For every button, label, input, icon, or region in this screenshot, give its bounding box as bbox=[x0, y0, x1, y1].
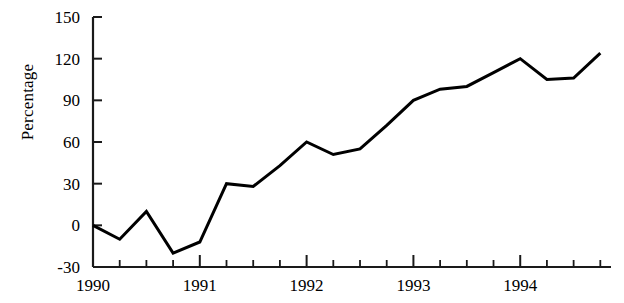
y-axis-tick-label: 90 bbox=[63, 91, 80, 110]
x-axis-tick-label: 1992 bbox=[290, 276, 324, 295]
x-axis-tick-label: 1990 bbox=[76, 276, 110, 295]
x-axis-tick-labels: 19901991199219931994 bbox=[76, 276, 538, 295]
data-series-line bbox=[93, 53, 600, 253]
y-axis-tick-label: 0 bbox=[72, 216, 81, 235]
line-chart: Percentage -300306090120150 199019911992… bbox=[0, 0, 624, 303]
y-axis-tick-label: 150 bbox=[55, 8, 81, 27]
x-axis-tick-label: 1994 bbox=[503, 276, 538, 295]
y-axis-tick-labels: -300306090120150 bbox=[55, 8, 81, 277]
y-axis-tick-label: 30 bbox=[63, 175, 80, 194]
y-axis-tick-label: 120 bbox=[55, 50, 81, 69]
y-axis-tick-label: -30 bbox=[57, 258, 80, 277]
x-axis-major-ticks bbox=[93, 255, 520, 267]
y-axis-ticks bbox=[93, 17, 102, 225]
x-axis-tick-label: 1993 bbox=[396, 276, 430, 295]
y-axis-tick-label: 60 bbox=[63, 133, 80, 152]
x-axis-tick-label: 1991 bbox=[183, 276, 217, 295]
chart-plot-area: -300306090120150 19901991199219931994 bbox=[0, 0, 624, 303]
